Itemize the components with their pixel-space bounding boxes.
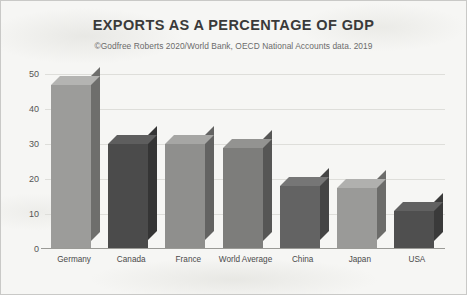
y-axis-tick-label: 40 (0, 104, 39, 114)
chart-canvas: EXPORTS AS A PERCENTAGE OF GDP ©Godfree … (0, 0, 467, 295)
bar-top-face (51, 76, 100, 85)
gridline (45, 109, 445, 110)
x-axis-label: France (176, 255, 201, 264)
bar-front-face (108, 144, 148, 249)
bar-top-face (280, 177, 329, 186)
y-axis-tick-label: 20 (0, 174, 39, 184)
y-axis-tick-label: 30 (0, 139, 39, 149)
bar (394, 202, 434, 250)
bar-side-face (205, 126, 214, 240)
bar-side-face (91, 67, 100, 241)
bar-top-face (337, 179, 386, 188)
y-axis-tick-label: 50 (0, 69, 39, 79)
x-axis-label: Germany (57, 255, 91, 264)
x-axis-label: Japan (349, 255, 371, 264)
y-axis-tick-label: 0 (0, 244, 39, 254)
bar (337, 179, 377, 249)
x-axis-line (41, 248, 445, 249)
x-axis-label: Canada (117, 255, 146, 264)
x-axis-label: USA (409, 255, 426, 264)
bar (108, 135, 148, 249)
x-axis-label: China (292, 255, 313, 264)
x-axis-label: World Average (219, 255, 272, 264)
plot-area: 01020304050 GermanyCanadaFranceWorld Ave… (45, 63, 445, 249)
bar (223, 139, 263, 250)
bar-side-face (148, 126, 157, 240)
bar-front-face (280, 186, 320, 249)
bar-front-face (337, 188, 377, 249)
chart-subtitle: ©Godfree Roberts 2020/World Bank, OECD N… (1, 41, 466, 51)
y-axis-tick-label: 10 (0, 209, 39, 219)
bar (165, 135, 205, 249)
bar-front-face (223, 148, 263, 250)
bar-top-face (394, 202, 443, 211)
bar-front-face (394, 211, 434, 250)
bar (51, 76, 91, 250)
gridline (45, 74, 445, 75)
bar-side-face (434, 193, 443, 241)
bar (280, 177, 320, 249)
bar-front-face (51, 85, 91, 250)
bar-top-face (223, 139, 272, 148)
chart-title: EXPORTS AS A PERCENTAGE OF GDP (1, 17, 466, 33)
bar-front-face (165, 144, 205, 249)
